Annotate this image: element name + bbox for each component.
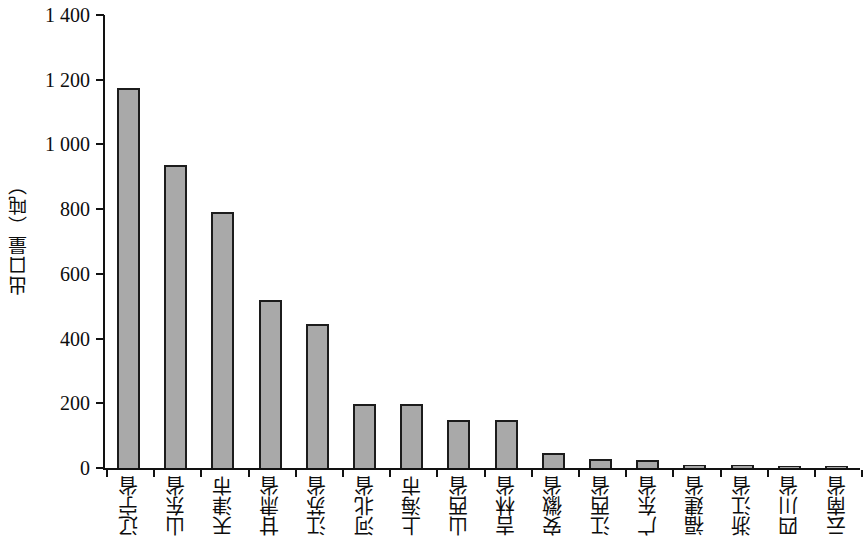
bar [731,465,754,468]
bar [400,404,423,468]
x-category-label-text: 山东省 [164,476,188,536]
x-category-label: 云南省 [824,476,850,540]
bar [589,459,612,468]
y-tick-label: 200 [60,393,90,413]
x-category-label-text: 天津市 [211,476,235,536]
x-category-label: 江苏省 [304,476,330,540]
y-tick-label: 1 400 [45,5,90,25]
x-category-label: 辽宁省 [116,476,142,540]
x-category-label: 吉林省 [493,476,519,540]
x-category-label: 山西省 [446,476,472,540]
x-category-label: 山东省 [163,476,189,540]
x-category-label: 浙江省 [729,476,755,540]
x-category-label-text: 广东省 [636,476,660,536]
x-category-label: 天津市 [210,476,236,540]
x-category-label-text: 甘肃省 [258,476,282,536]
bar [495,420,518,468]
x-category-label-text: 山西省 [447,476,471,536]
y-tick-mark [96,14,104,16]
x-category-label-text: 安徽省 [541,476,565,536]
x-category-label: 上海市 [399,476,425,540]
x-category-label-text: 河北省 [353,476,377,536]
x-category-label: 四川省 [776,476,802,540]
x-category-label: 江西省 [588,476,614,540]
y-axis-title: 出口量（吨） [0,0,34,470]
y-tick-label: 800 [60,199,90,219]
bar-chart: 出口量（吨） 1 4001 2001 0008006004002000 辽宁省山… [0,0,863,545]
bar [447,420,470,468]
bar [636,460,659,468]
bar [259,300,282,468]
y-axis-title-text: 出口量（吨） [4,175,31,295]
x-category-label-text: 四川省 [777,476,801,536]
bar [778,466,801,468]
x-axis-line [103,468,860,470]
x-category-label-text: 福建省 [683,476,707,536]
x-category-label: 安徽省 [540,476,566,540]
bar [306,324,329,468]
bar [825,466,848,468]
x-category-label-text: 上海市 [400,476,424,536]
x-category-label-text: 辽宁省 [117,476,141,536]
y-tick-label: 1 200 [45,70,90,90]
y-tick-mark [96,143,104,145]
x-category-label: 甘肃省 [257,476,283,540]
y-tick-label: 400 [60,329,90,349]
y-tick-mark [96,79,104,81]
y-tick-mark [96,467,104,469]
y-tick-label: 0 [80,458,90,478]
y-tick-label: 1 000 [45,134,90,154]
x-category-label: 河北省 [352,476,378,540]
x-axis-tick-labels: 辽宁省山东省天津市甘肃省江苏省河北省上海市山西省吉林省安徽省江西省广东省福建省浙… [103,476,860,545]
y-tick-mark [96,338,104,340]
x-category-label: 福建省 [682,476,708,540]
x-category-label: 广东省 [635,476,661,540]
bar [683,465,706,468]
bar [117,88,140,468]
bar [542,453,565,468]
x-category-label-text: 江苏省 [305,476,329,536]
x-category-label-text: 云南省 [825,476,849,536]
bar [353,404,376,468]
y-tick-mark [96,208,104,210]
y-tick-mark [96,273,104,275]
x-category-label-text: 浙江省 [730,476,754,536]
x-category-label-text: 江西省 [589,476,613,536]
bar [211,212,234,468]
y-tick-label: 600 [60,264,90,284]
y-tick-mark [96,402,104,404]
y-axis-tick-labels: 1 4001 2001 0008006004002000 [34,0,96,480]
bar [164,165,187,468]
plot-area [103,15,860,470]
x-category-label-text: 吉林省 [494,476,518,536]
